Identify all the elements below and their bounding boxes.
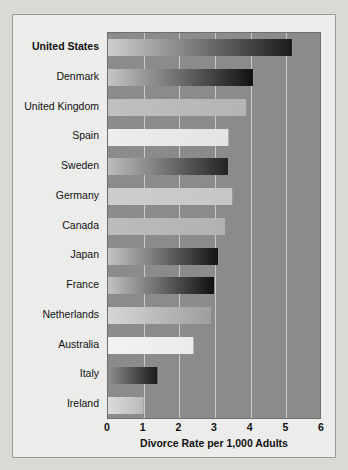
y-axis-label: France bbox=[66, 270, 99, 300]
x-axis-tick-labels: 0123456 bbox=[107, 421, 321, 437]
bar-row bbox=[108, 93, 321, 123]
bar bbox=[108, 69, 254, 86]
bar bbox=[108, 218, 226, 235]
plot-area bbox=[107, 32, 321, 419]
y-axis-label: Italy bbox=[80, 359, 99, 389]
x-tick-label: 5 bbox=[282, 421, 288, 433]
bar bbox=[108, 188, 233, 205]
bar bbox=[108, 99, 247, 116]
bar-row bbox=[108, 271, 321, 301]
bar-row bbox=[108, 182, 321, 212]
bar-row bbox=[108, 63, 321, 93]
x-tick-label: 6 bbox=[318, 421, 324, 433]
bar-row bbox=[108, 301, 321, 331]
bar-row bbox=[108, 390, 321, 419]
y-axis-label: Spain bbox=[72, 121, 99, 151]
bar bbox=[108, 158, 229, 175]
bar-row bbox=[108, 212, 321, 242]
bar bbox=[108, 367, 158, 384]
y-axis-label: Ireland bbox=[67, 389, 99, 419]
bar bbox=[108, 337, 194, 354]
bar-row bbox=[108, 122, 321, 152]
y-axis-label: Germany bbox=[56, 181, 99, 211]
y-axis-label: Canada bbox=[62, 211, 99, 241]
bar-row bbox=[108, 360, 321, 390]
y-axis-label: Sweden bbox=[61, 151, 99, 181]
bar bbox=[108, 248, 219, 265]
x-tick-label: 2 bbox=[175, 421, 181, 433]
bar-row bbox=[108, 331, 321, 361]
bar-row bbox=[108, 241, 321, 271]
bar-row bbox=[108, 33, 321, 63]
chart-figure: United StatesDenmarkUnited KingdomSpainS… bbox=[12, 14, 336, 458]
y-axis-label: Denmark bbox=[56, 62, 99, 92]
y-axis-label: Japan bbox=[70, 240, 99, 270]
bar-row bbox=[108, 152, 321, 182]
x-tick-label: 1 bbox=[140, 421, 146, 433]
y-axis-label: Australia bbox=[58, 330, 99, 360]
bar bbox=[108, 39, 293, 56]
x-tick-label: 0 bbox=[104, 421, 110, 433]
bar bbox=[108, 277, 215, 294]
x-tick-label: 4 bbox=[247, 421, 253, 433]
bar bbox=[108, 397, 144, 414]
x-tick-label: 3 bbox=[211, 421, 217, 433]
y-axis-label: United Kingdom bbox=[24, 92, 99, 122]
bar bbox=[108, 307, 211, 324]
y-axis-category-labels: United StatesDenmarkUnited KingdomSpainS… bbox=[13, 32, 103, 419]
y-axis-label: Netherlands bbox=[42, 300, 99, 330]
bar bbox=[108, 129, 229, 146]
x-axis-title: Divorce Rate per 1,000 Adults bbox=[107, 437, 321, 449]
y-axis-label: United States bbox=[32, 32, 99, 62]
